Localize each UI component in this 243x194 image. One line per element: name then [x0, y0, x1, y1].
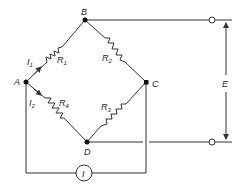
node-c: [144, 80, 149, 85]
branch-c-d: [87, 82, 146, 142]
label-r2: R2: [102, 53, 113, 64]
node-b: [83, 18, 88, 23]
terminal-top: [209, 17, 215, 23]
label-node-c: C: [152, 79, 159, 89]
node-a: [24, 80, 29, 85]
label-i2: I2: [29, 98, 36, 109]
label-node-a: A: [13, 77, 20, 87]
branch-b-c: [85, 20, 146, 82]
label-voltage-e: E: [222, 79, 229, 89]
branch-a-d: [26, 82, 87, 142]
label-r4: R4: [59, 98, 70, 109]
label-node-b: B: [81, 7, 87, 17]
label-r1: R1: [57, 55, 67, 66]
label-i1: I1: [27, 57, 33, 68]
label-node-d: D: [84, 147, 91, 157]
node-d: [85, 140, 90, 145]
branch-a-b: [26, 20, 85, 82]
current-arrow-i2: [34, 89, 41, 95]
terminal-bottom: [209, 139, 215, 145]
label-r3: R3: [101, 102, 112, 113]
current-arrow-i1: [34, 67, 41, 74]
wheatstone-bridge-diagram: B A C D I1 R1 R2 I2 R4 R3 I E: [0, 0, 243, 194]
